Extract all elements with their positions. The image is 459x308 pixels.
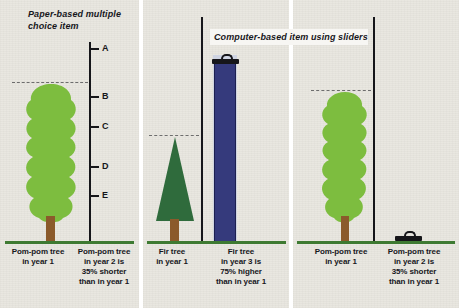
scale-tick-d — [89, 166, 99, 168]
caption-line: 35% shorter — [379, 267, 449, 277]
panel-divider-rule — [373, 17, 375, 244]
pom-pom-tree-illustration — [16, 82, 86, 242]
ground-line — [5, 241, 134, 244]
slider-fill-bar[interactable] — [214, 62, 236, 242]
caption-line: in year 1 — [4, 257, 72, 267]
caption-line: Pom-pom tree — [379, 247, 449, 257]
panel-computer-based: Fir tree in year 1 Fir tree in year 3 is… — [143, 0, 289, 308]
answer-scale-axis — [89, 42, 91, 244]
caption-line: than in year 1 — [379, 277, 449, 287]
ground-line — [147, 241, 286, 244]
caption-pom-pom-year-1: Pom-pom tree in year 1 — [307, 247, 375, 267]
scale-tick-a — [89, 48, 99, 50]
caption-fir-year-1: Fir tree in year 1 — [144, 247, 200, 267]
caption-line: in year 1 — [307, 257, 375, 267]
caption-line: Pom-pom tree — [4, 247, 72, 257]
scale-tick-c — [89, 126, 99, 128]
caption-line: 35% shorter — [71, 267, 137, 277]
scale-option-a[interactable]: A — [102, 44, 109, 53]
caption-line: Pom-pom tree — [71, 247, 137, 257]
caption-line: Fir tree — [144, 247, 200, 257]
fir-tree-illustration — [153, 135, 197, 241]
figure-root: Paper-based multiple choice item A B C D… — [0, 0, 459, 308]
caption-line: in year 1 — [144, 257, 200, 267]
panel-divider-rule — [201, 17, 203, 244]
caption-line: 75% higher — [205, 267, 277, 277]
scale-option-b[interactable]: B — [102, 92, 109, 101]
pom-pom-tree-illustration — [315, 90, 375, 242]
caption-line: Pom-pom tree — [307, 247, 375, 257]
scale-option-d[interactable]: D — [102, 162, 109, 171]
caption-line: Fir tree — [205, 247, 277, 257]
panel-paper-based: Paper-based multiple choice item A B C D… — [0, 0, 139, 308]
caption-line: than in year 1 — [205, 277, 277, 287]
caption-pom-pom-year-2: Pom-pom tree in year 2 is 35% shorter th… — [379, 247, 449, 287]
scale-tick-b — [89, 96, 99, 98]
panel-title-computer-based: Computer-based item using sliders — [210, 29, 368, 45]
caption-line: in year 2 is — [379, 257, 449, 267]
panel-title-paper-based: Paper-based multiple choice item — [28, 8, 134, 32]
scale-tick-e — [89, 195, 99, 197]
slider-handle[interactable] — [212, 59, 239, 64]
caption-line: in year 2 is — [71, 257, 137, 267]
scale-option-c[interactable]: C — [102, 122, 109, 131]
ground-line — [297, 241, 455, 244]
panel-computer-based-second: Pom-pom tree in year 1 Pom-pom tree in y… — [293, 0, 459, 308]
caption-line: than in year 1 — [71, 277, 137, 287]
caption-pom-pom-year-2: Pom-pom tree in year 2 is 35% shorter th… — [71, 247, 137, 287]
caption-pom-pom-year-1: Pom-pom tree in year 1 — [4, 247, 72, 267]
caption-line: in year 3 is — [205, 257, 277, 267]
caption-fir-year-3: Fir tree in year 3 is 75% higher than in… — [205, 247, 277, 287]
scale-option-e[interactable]: E — [102, 191, 108, 200]
